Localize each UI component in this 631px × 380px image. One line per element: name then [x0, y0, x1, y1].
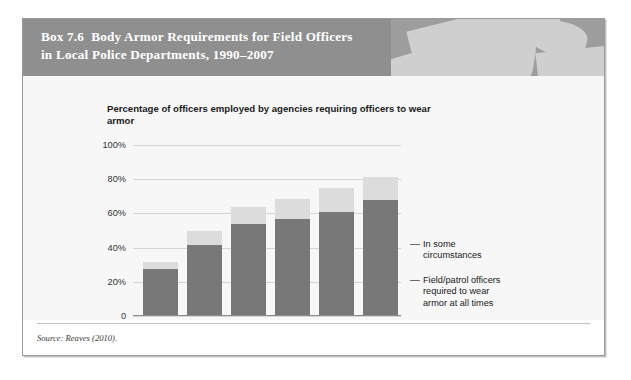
chart-title: Percentage of officers employed by agenc…	[107, 103, 437, 126]
legend-label-some-line2: circumstances	[423, 250, 482, 260]
bar-segment-some-1990[interactable]	[143, 262, 178, 269]
bar-segment-all-2000[interactable]	[275, 219, 310, 315]
bar-segment-some-2007[interactable]	[363, 177, 398, 201]
bar-segment-some-2000[interactable]	[275, 199, 310, 220]
legend-item-in-some-circumstances: In some circumstances	[423, 239, 535, 262]
bar-segment-some-1997[interactable]	[231, 207, 266, 224]
box-number-label: Box 7.6	[41, 29, 84, 44]
box-title-line2: in Local Police Departments, 1990–2007	[41, 47, 274, 62]
legend-item-required-all-times: Field/patrol officers required to wear a…	[423, 275, 535, 309]
source-note: Source: Reaves (2010).	[37, 333, 117, 343]
bar-segment-all-1993[interactable]	[187, 245, 222, 315]
box-figure-container: Box 7.6Body Armor Requirements for Field…	[22, 18, 605, 356]
legend-label-all-line3: armor at all times	[423, 298, 493, 308]
y-axis-tick-80: 80%	[108, 174, 126, 184]
bar-group-2007[interactable]: 2007	[363, 177, 398, 316]
chart-area: Percentage of officers employed by agenc…	[23, 76, 604, 320]
gridline-0: 0	[133, 316, 401, 317]
box-header-band: Box 7.6Body Armor Requirements for Field…	[23, 19, 604, 76]
bar-group-1993[interactable]: 1993	[187, 231, 222, 315]
y-axis-tick-20: 20%	[108, 277, 126, 287]
box-header-title: Box 7.6Body Armor Requirements for Field…	[41, 28, 401, 64]
plot-region: 0 20% 40% 60% 80% 100% 1990	[133, 145, 401, 316]
bar-group-2003[interactable]: 2003	[319, 188, 354, 315]
gridline-80: 80%	[133, 179, 401, 180]
bar-group-1997[interactable]: 1997	[231, 207, 266, 315]
bar-group-2000[interactable]: 2000	[275, 199, 310, 315]
legend-label-some-line1: In some	[423, 239, 456, 249]
box-title-line1: Body Armor Requirements for Field Office…	[91, 29, 353, 44]
box-footer: Source: Reaves (2010).	[23, 320, 604, 355]
x-axis-line	[133, 315, 401, 316]
legend-leader-line-icon	[410, 280, 420, 281]
bar-segment-all-1990[interactable]	[143, 269, 178, 315]
legend-label-all-line2: required to wear	[423, 286, 489, 296]
y-axis-tick-40: 40%	[108, 243, 126, 253]
bar-segment-all-1997[interactable]	[231, 224, 266, 315]
bar-segment-all-2003[interactable]	[319, 212, 354, 315]
police-officer-photo	[391, 19, 604, 76]
bar-group-1990[interactable]: 1990	[143, 262, 178, 315]
gridline-40: 40%	[133, 248, 401, 249]
bar-segment-some-2003[interactable]	[319, 188, 354, 212]
gridline-60: 60%	[133, 213, 401, 214]
bar-segment-some-1993[interactable]	[187, 231, 222, 245]
y-axis-tick-60: 60%	[108, 208, 126, 218]
gridline-100: 100%	[133, 145, 401, 146]
legend-label-all-line1: Field/patrol officers	[423, 275, 500, 285]
legend-leader-line-icon	[410, 244, 420, 245]
bar-segment-all-2007[interactable]	[363, 200, 398, 315]
footer-divider	[37, 323, 590, 324]
y-axis-tick-100: 100%	[103, 140, 127, 150]
